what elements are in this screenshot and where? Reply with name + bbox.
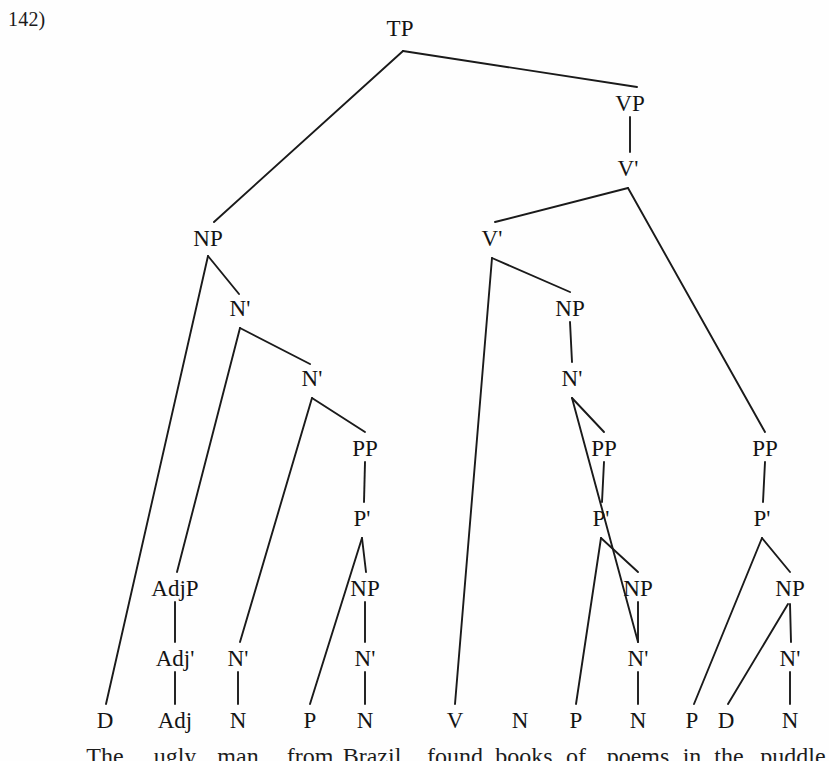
tree-node-Nbar4: N' <box>228 647 249 670</box>
tree-branches <box>0 0 829 761</box>
tree-node-NP3: NP <box>350 577 379 600</box>
sentence-word-10: the <box>714 744 743 761</box>
tree-node-Pbar3: P' <box>754 507 771 530</box>
tree-edge-NP2-to-Nbar3 <box>570 322 572 362</box>
sentence-word-6: books <box>495 744 552 761</box>
tree-edge-Nbar2-to-Nbar4 <box>240 398 312 642</box>
syntax-tree-figure: 142) TPVPV'NPV'N'NPN'N'PPPPPPP'P'P'AdjPN… <box>0 0 829 761</box>
tree-edge-Pbar3-to-NP5 <box>762 538 790 572</box>
sentence-word-1: ugly <box>154 744 197 761</box>
tree-node-PP1: PP <box>352 437 378 460</box>
sentence-word-9: in <box>683 744 702 761</box>
tree-node-Nbar3: N' <box>562 367 583 390</box>
tree-node-Vbar2: V' <box>482 227 503 250</box>
tree-edge-Vbar1-to-Vbar2 <box>495 188 628 222</box>
tree-node-Pbar1: P' <box>354 507 371 530</box>
tree-edge-PP1-to-Pbar1 <box>364 462 365 502</box>
tree-node-Pbar2: P' <box>593 507 610 530</box>
tree-node-NP2: NP <box>555 297 584 320</box>
tree-node-VP: VP <box>615 92 644 115</box>
sentence-word-0: The <box>86 744 123 761</box>
tree-node-NP5: NP <box>775 577 804 600</box>
tree-leaf-L_V: V <box>447 709 464 732</box>
tree-edge-TP-to-NP1 <box>214 51 403 222</box>
tree-leaf-L_N2: N <box>357 709 374 732</box>
tree-leaf-L_N5: N <box>782 709 799 732</box>
tree-leaf-L_Adj: Adj <box>158 709 193 732</box>
tree-edge-TP-to-VP <box>403 51 637 87</box>
tree-edge-Nbar1-to-L_Adj_path <box>177 328 240 572</box>
tree-edge-NP1-to-L_D1 <box>106 256 208 704</box>
tree-edge-Nbar2-to-PP1 <box>312 398 365 432</box>
tree-edge-Pbar1-to-L_P1 <box>310 538 362 704</box>
sentence-word-7: of <box>566 744 586 761</box>
sentence-row: TheuglymanfromBrazilfoundbooksofpoemsint… <box>0 744 829 761</box>
tree-edge-NP5-to-Nbar7 <box>790 604 791 642</box>
tree-edge-Pbar3-to-L_P3 <box>694 538 762 704</box>
tree-node-Nbar6: N' <box>628 647 649 670</box>
tree-edge-PP2-to-Pbar2 <box>602 462 604 502</box>
tree-edge-Pbar2-to-L_P2 <box>576 538 601 704</box>
sentence-word-3: from <box>287 744 334 761</box>
tree-node-Vbar1: V' <box>618 157 639 180</box>
tree-edge-Pbar2-to-NP4 <box>601 538 638 572</box>
tree-edge-Pbar1-to-NP3 <box>362 538 366 572</box>
sentence-word-2: man <box>217 744 258 761</box>
sentence-word-8: poems <box>607 744 670 761</box>
tree-leaf-L_D1: D <box>97 709 114 732</box>
tree-node-PP2: PP <box>591 437 617 460</box>
tree-leaf-L_P3: P <box>686 709 699 732</box>
tree-leaf-L_N3: N <box>512 709 529 732</box>
tree-leaf-L_P1: P <box>304 709 317 732</box>
tree-leaf-L_N1: N <box>230 709 247 732</box>
sentence-word-5: found <box>427 744 483 761</box>
tree-node-Adjbar: Adj' <box>156 647 195 670</box>
tree-node-Nbar1: N' <box>230 297 251 320</box>
tree-edge-Vbar2-to-L_V <box>455 258 492 704</box>
tree-leaf-L_D2: D <box>718 709 735 732</box>
tree-edge-Nbar1-to-Nbar2 <box>240 328 310 364</box>
tree-node-Nbar7: N' <box>780 647 801 670</box>
tree-edge-NP1-to-Nbar1 <box>208 256 239 294</box>
sentence-word-4: Brazil <box>343 744 402 761</box>
tree-node-NP1: NP <box>193 227 222 250</box>
tree-node-Nbar2: N' <box>302 367 323 390</box>
tree-edge-Vbar1-to-PP3 <box>628 188 765 432</box>
tree-node-Nbar5: N' <box>355 647 376 670</box>
tree-edge-Vbar2-to-NP2 <box>492 258 570 292</box>
tree-leaf-L_P2: P <box>570 709 583 732</box>
tree-node-AdjP: AdjP <box>151 577 198 600</box>
tree-edge-PP3-to-Pbar3 <box>763 462 765 502</box>
sentence-word-11: puddle <box>760 744 825 761</box>
tree-node-NP4: NP <box>623 577 652 600</box>
tree-node-TP: TP <box>387 17 414 40</box>
tree-node-PP3: PP <box>752 437 778 460</box>
tree-leaf-L_N4: N <box>630 709 647 732</box>
